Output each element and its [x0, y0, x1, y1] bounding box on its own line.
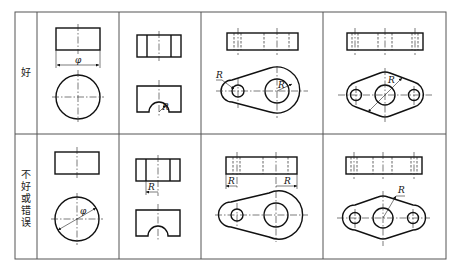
radius-label: R [397, 185, 405, 195]
diameter-symbol: φ [75, 55, 82, 65]
radius-label-large: R [283, 176, 291, 186]
row-label-bad: 不 好 或 错 误 [21, 169, 31, 228]
radius-label: R [161, 102, 169, 112]
radius-label-small: R [227, 176, 235, 186]
top-view-rect [346, 157, 422, 174]
row-label-char: 好 [21, 181, 31, 192]
table-grid [15, 12, 446, 259]
good-half-cut-drawing: R [137, 31, 181, 116]
radius-label-large: R [277, 80, 285, 90]
bad-flange-drawing: R [337, 152, 430, 246]
diameter-symbol: φ [80, 206, 87, 216]
row-label-char: 或 [21, 193, 31, 204]
radius-leader [383, 196, 396, 218]
row-label-good: 好 [21, 67, 31, 78]
plate-outline [221, 67, 300, 113]
good-flange-drawing: R [338, 28, 432, 122]
table-border [15, 12, 446, 259]
top-view-rect [227, 33, 298, 50]
radius-label: R [387, 75, 395, 85]
bad-cylinder-drawing: φ [51, 147, 103, 245]
top-view-rect [226, 157, 297, 174]
bad-lever-plate-drawing: R R [215, 152, 308, 242]
dimensioning-comparison-table: 好 不 好 或 错 误 φ R [0, 0, 456, 273]
radius-label-small: R [215, 70, 223, 80]
row-label-char: 错 [21, 204, 31, 216]
row-label-char: 误 [21, 217, 31, 228]
row-label-char: 不 [21, 169, 31, 180]
flange-outline [343, 196, 426, 239]
good-lever-plate-drawing: R R [215, 28, 308, 118]
bad-half-cut-drawing: R [136, 155, 180, 241]
radius-label: R [147, 182, 155, 192]
good-cylinder-drawing: φ [52, 24, 104, 122]
